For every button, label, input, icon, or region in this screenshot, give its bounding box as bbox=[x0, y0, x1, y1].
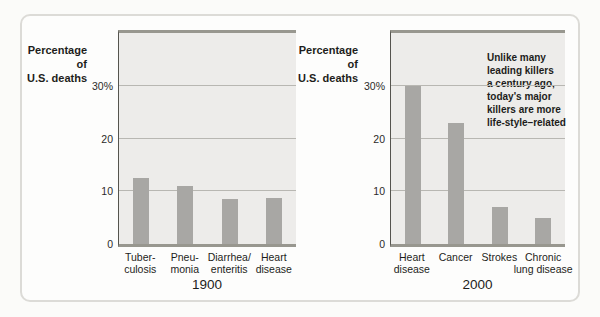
bar-heart-disease bbox=[266, 198, 282, 244]
bar-diarrhea-enteritis bbox=[222, 199, 238, 244]
y-axis-title-1900: Percentage of U.S. deaths bbox=[15, 43, 87, 85]
bar-pneumonia bbox=[177, 186, 193, 244]
annotation-note: Unlike many leading killers a century ag… bbox=[487, 51, 573, 129]
plot-area-2000: Unlike many leading killers a century ag… bbox=[390, 30, 565, 247]
bar-strokes bbox=[492, 207, 508, 244]
figure-two-bar-charts: Percentage of U.S. deaths Tuber- culosis… bbox=[0, 0, 600, 317]
y-tick-label-0: 0 bbox=[77, 238, 113, 250]
category-label-chronic-lung-disease: Chronic lung disease bbox=[510, 251, 576, 275]
y-tick-label-30: 30% bbox=[77, 80, 113, 92]
y-tick-label-20: 20 bbox=[77, 133, 113, 145]
gridline-20 bbox=[119, 138, 296, 139]
bar-heart-disease bbox=[405, 86, 421, 244]
plot-area-1900 bbox=[118, 30, 296, 247]
y-tick-label-10: 10 bbox=[77, 185, 113, 197]
bar-cancer bbox=[448, 123, 464, 244]
bar-tuberculosis bbox=[133, 178, 149, 244]
bar-chronic-lung-disease bbox=[535, 218, 551, 244]
y-tick-label-30: 30% bbox=[349, 80, 385, 92]
year-label-2000: 2000 bbox=[390, 277, 565, 292]
y-axis-title-2000: Percentage of U.S. deaths bbox=[286, 43, 358, 85]
gridline-30 bbox=[119, 85, 296, 86]
year-label-1900: 1900 bbox=[118, 277, 296, 292]
y-tick-label-10: 10 bbox=[349, 185, 385, 197]
y-tick-label-0: 0 bbox=[349, 238, 385, 250]
category-label-heart-disease: Heart disease bbox=[241, 251, 307, 275]
y-tick-label-20: 20 bbox=[349, 133, 385, 145]
